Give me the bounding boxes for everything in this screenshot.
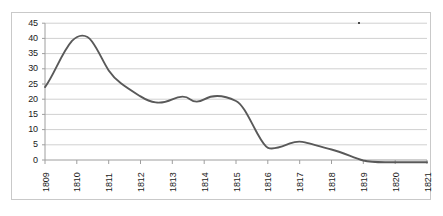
- x-axis-label-1814: 1814: [201, 172, 210, 192]
- y-axis-label-15: 15: [16, 110, 38, 119]
- x-axis-label-1809: 1809: [42, 172, 51, 192]
- y-axis-label-40: 40: [16, 34, 38, 43]
- x-axis-label-1817: 1817: [296, 172, 305, 192]
- y-axis-label-20: 20: [16, 95, 38, 104]
- y-axis-label-25: 25: [16, 80, 38, 89]
- x-axis-label-1818: 1818: [328, 172, 337, 192]
- chart-canvas: [0, 0, 443, 216]
- x-axis-label-1811: 1811: [105, 173, 114, 192]
- x-axis-label-1820: 1820: [392, 172, 401, 192]
- x-axis-label-1816: 1816: [264, 172, 273, 192]
- y-axis-label-5: 5: [16, 140, 38, 149]
- x-axis-label-1821: 1821: [424, 172, 433, 192]
- y-axis-label-45: 45: [16, 19, 38, 28]
- x-axis-label-1819: 1819: [360, 172, 369, 192]
- y-axis-label-0: 0: [16, 156, 38, 165]
- x-axis-label-1813: 1813: [169, 172, 178, 192]
- x-axis-label-1812: 1812: [137, 172, 146, 192]
- y-axis-label-30: 30: [16, 64, 38, 73]
- gridlines-group: [45, 23, 427, 145]
- y-axis-label-10: 10: [16, 125, 38, 134]
- y-axis-label-35: 35: [16, 49, 38, 58]
- image-speck-artifact: [358, 22, 360, 24]
- x-axis-label-1810: 1810: [73, 172, 82, 192]
- x-axis-label-1815: 1815: [233, 172, 242, 192]
